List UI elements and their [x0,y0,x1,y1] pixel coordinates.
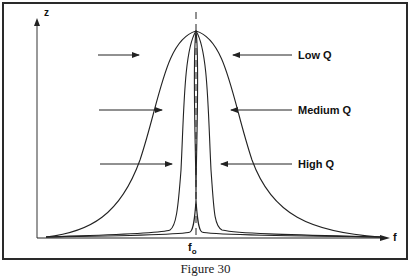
low-q-label: Low Q [298,50,332,61]
figure-caption: Figure 30 [0,262,411,275]
z-axis [34,18,40,238]
center-frequency-subscript: o [192,247,197,256]
center-frequency-label: fo [188,242,197,256]
high-q-label: High Q [298,159,334,170]
f-axis-label: f [393,232,397,243]
z-axis-label: z [44,8,49,18]
medium-q-curve [46,31,380,237]
high-q-curve [46,31,380,237]
low-q-curve [46,31,380,237]
z-axis-arrow-icon [34,18,40,26]
medium-q-label: Medium Q [298,105,351,116]
f-axis-arrow-icon [380,235,390,241]
